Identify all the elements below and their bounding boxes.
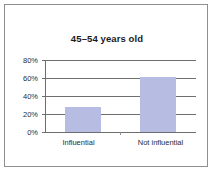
chart-title: 45–54 years old [0, 33, 214, 44]
x-axis-center-tick [120, 132, 121, 135]
y-tick-label: 60% [4, 74, 38, 83]
chart-figure: 45–54 years old 0%20%40%60%80% Influenti… [0, 0, 214, 172]
y-tick-mark [42, 78, 45, 79]
y-tick-label: 0% [4, 128, 38, 137]
y-tick-label: 40% [4, 92, 38, 101]
bar-influential [65, 107, 101, 132]
x-axis-label-influential: Influential [41, 138, 116, 147]
x-axis-label-not-influential: Not influential [118, 138, 203, 147]
gridline-80pct [45, 60, 196, 61]
bar-not-influential [140, 77, 176, 132]
plot-area: 0%20%40%60%80% [45, 60, 196, 132]
y-tick-mark [42, 60, 45, 61]
y-tick-label: 80% [4, 56, 38, 65]
y-tick-mark [42, 132, 45, 133]
y-tick-mark [42, 96, 45, 97]
y-tick-label: 20% [4, 110, 38, 119]
y-tick-mark [42, 114, 45, 115]
